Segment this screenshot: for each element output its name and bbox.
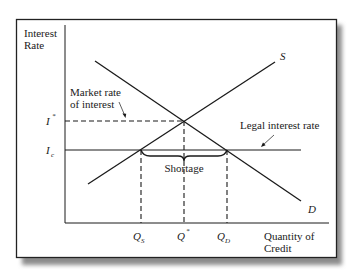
market-rate-label-line1: Market rate [70,86,121,98]
x-axis-label-line1: Quantity of [264,230,315,242]
legal-rate-label: Legal interest rate [240,119,320,131]
credit-market-diagram: Interest Rate Quantity of Credit S D I *… [0,0,352,280]
y-axis-label-line1: Interest [24,27,57,39]
supply-label: S [280,50,286,62]
svg-text:S: S [141,237,145,245]
svg-text:*: * [52,112,56,120]
svg-text:*: * [186,227,190,235]
svg-text:Q: Q [177,230,185,242]
y-axis-label-line2: Rate [24,39,44,51]
demand-label: D [307,203,316,215]
x-axis-label-line2: Credit [264,242,292,254]
svg-text:D: D [224,237,230,245]
shortage-label: Shortage [164,162,203,174]
market-rate-label-line2: of interest [70,98,114,110]
svg-text:Q: Q [133,230,141,242]
svg-text:Q: Q [217,230,225,242]
